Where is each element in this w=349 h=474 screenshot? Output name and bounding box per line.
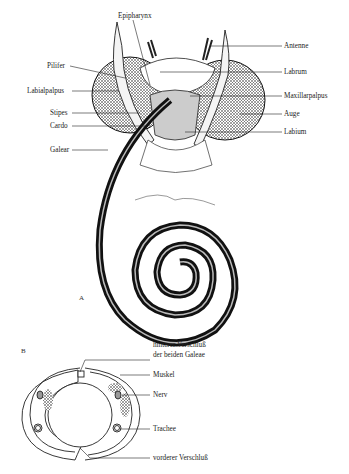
label-labrum: Labrum [284, 68, 307, 76]
label-cardo: Cardo [50, 122, 68, 130]
label-muskel: Muskel [153, 371, 175, 379]
body-outline [135, 195, 215, 205]
label-galear: Galear [50, 146, 69, 154]
label-auge: Auge [284, 110, 300, 118]
label-antenne: Antenne [284, 42, 308, 50]
label-vorderer-verschluss: vorderer Verschluß [153, 454, 208, 462]
label-labialpalpus: Labialpalpus [27, 87, 64, 95]
label-epipharynx: Epipharynx [118, 12, 152, 20]
antenna-left [148, 40, 156, 58]
panel-label-b: B [21, 347, 26, 355]
label-trachee: Trachee [153, 425, 176, 433]
labium-neck [140, 140, 212, 173]
antenna-right [203, 38, 212, 60]
label-pilifer: Pilifer [47, 62, 65, 70]
label-nerv: Nerv [153, 391, 167, 399]
label-stipes: Stipes [50, 109, 68, 117]
proboscis-cross-section [22, 368, 140, 460]
panel-label-a: A [79, 294, 84, 302]
label-maxillarpalpus: Maxillarpalpus [284, 92, 328, 100]
label-hinterer-verschluss-2: der beiden Galeae [153, 351, 205, 359]
label-labium: Labium [284, 128, 306, 136]
label-hinterer-verschluss-1: hinterer Verschluß [153, 341, 206, 349]
